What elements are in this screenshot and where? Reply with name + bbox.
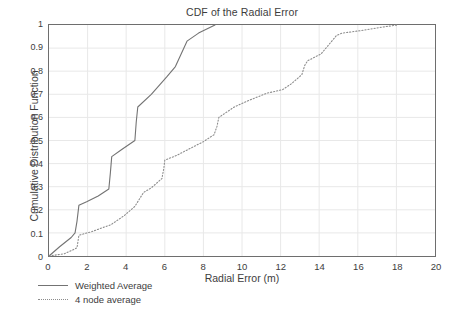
x-tick-label: 4 [106,261,146,272]
y-tick-label: 1 [3,19,43,29]
chart-figure: CDF of the Radial Error Cumulative Distr… [0,0,453,317]
series-line-1 [49,25,397,256]
x-tick-label: 14 [300,261,340,272]
y-tick-label: 0.9 [3,42,43,52]
y-tick-label: 0.1 [3,229,43,239]
x-tick-label: 16 [338,261,378,272]
legend-item-4-node-average: 4 node average [38,292,238,306]
x-tick-label: 12 [261,261,301,272]
y-tick-label: 0.5 [3,136,43,146]
legend-line-sample-dotted-icon [38,294,68,304]
data-series-layer [49,25,435,256]
y-tick-label: 0.2 [3,205,43,215]
x-tick-label: 18 [377,261,417,272]
x-tick-label: 0 [28,261,68,272]
x-tick-label: 20 [416,261,453,272]
legend-label: Weighted Average [75,280,152,291]
x-tick-label: 2 [67,261,107,272]
y-tick-label: 0.4 [3,159,43,169]
series-line-0 [49,25,215,256]
y-tick-label: 0.6 [3,112,43,122]
legend-item-weighted-average: Weighted Average [38,278,238,292]
x-tick-label: 8 [183,261,223,272]
x-tick-label: 6 [144,261,184,272]
legend-label: 4 node average [75,294,141,305]
chart-legend: Weighted Average 4 node average [38,278,238,306]
x-tick-label: 10 [222,261,262,272]
y-tick-label: 0.3 [3,182,43,192]
chart-title: CDF of the Radial Error [48,6,436,18]
legend-line-sample-solid-icon [38,280,68,290]
plot-area [48,24,436,257]
y-tick-label: 0.7 [3,89,43,99]
y-tick-label: 0.8 [3,66,43,76]
